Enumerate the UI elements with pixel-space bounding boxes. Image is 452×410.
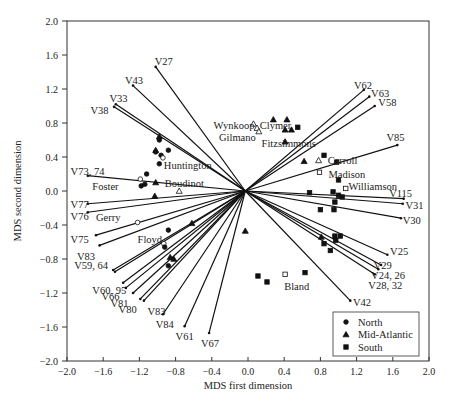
square-marker-south	[322, 153, 326, 157]
vector-endpoint	[114, 270, 117, 273]
circle-marker-north	[143, 182, 148, 187]
vector-label: V59, 64	[74, 260, 109, 271]
square-marker-south	[344, 186, 348, 190]
vector-endpoint	[373, 105, 376, 108]
circle-marker-north	[135, 220, 140, 225]
square-marker-south	[334, 238, 338, 242]
legend-label: Mid-Atlantic	[358, 329, 413, 340]
vector-label: V43	[125, 75, 143, 86]
y-tick-label: 0.0	[46, 186, 59, 197]
square-marker-south	[333, 234, 337, 238]
y-tick-label: −0.8	[40, 254, 58, 265]
square-marker-south	[265, 280, 269, 284]
vector-label: V67	[201, 338, 219, 349]
square-legend-icon	[344, 345, 348, 349]
vector-endpoint	[113, 106, 116, 109]
loading-vectors: V27V43V33V38V73, 74V77V76V75V83V59, 64V6…	[71, 56, 424, 349]
circle-legend-icon	[344, 320, 349, 325]
delegate-name-label: Wynkoop	[214, 120, 255, 131]
x-tick-label: −2.0	[58, 366, 76, 377]
delegate-name-label: Gilmano	[219, 132, 256, 143]
vector-endpoint	[98, 244, 101, 247]
vector-line	[209, 191, 245, 333]
vector-endpoint	[143, 299, 146, 302]
triangle-marker-midatlantic	[153, 147, 159, 152]
vector-label: V42	[353, 297, 371, 308]
vector-label: V30	[403, 215, 421, 226]
mds-biplot: −2.0−1.6−1.2−0.8−0.40.00.40.81.21.62.0 2…	[0, 0, 452, 410]
y-tick-label: −2.0	[40, 356, 58, 367]
circle-marker-north	[144, 172, 149, 177]
x-tick-label: 2.0	[423, 366, 436, 377]
y-tick-label: −1.2	[40, 288, 58, 299]
square-marker-south	[338, 234, 342, 238]
delegate-name-label: Clymer	[260, 120, 292, 131]
triangle-marker-midatlantic	[152, 193, 158, 198]
vector-label: V76	[71, 211, 89, 222]
vector-endpoint	[132, 292, 135, 295]
square-marker-south	[307, 191, 311, 195]
square-marker-south	[303, 270, 307, 274]
legend-label: South	[358, 342, 383, 353]
x-tick-label: −1.2	[130, 366, 148, 377]
square-marker-south	[283, 272, 287, 276]
x-tick-label: 1.6	[387, 366, 400, 377]
vector-label: V84	[156, 319, 175, 330]
vector-label: V85	[386, 132, 404, 143]
square-marker-south	[296, 125, 300, 129]
delegate-name-label: Williamson	[348, 181, 397, 192]
square-marker-south	[331, 190, 335, 194]
square-marker-south	[333, 200, 337, 204]
vector-label: V31	[405, 200, 423, 211]
circle-marker-north	[166, 264, 171, 269]
x-tick-label: 0.0	[242, 366, 255, 377]
circle-marker-north	[166, 148, 171, 153]
y-tick-label: 0.4	[46, 152, 59, 163]
delegate-name-label: Bland	[284, 281, 310, 292]
vector-line	[100, 191, 246, 245]
y-tick-label: 1.6	[46, 50, 59, 61]
square-marker-south	[328, 248, 332, 252]
vector-label: V58	[378, 97, 396, 108]
vector-label: V73, 74	[71, 166, 106, 177]
y-tick-label: −1.6	[40, 322, 58, 333]
delegate-name-label: Fitzsimmons	[262, 138, 316, 149]
x-tick-label: −0.4	[203, 366, 221, 377]
vector-label: V38	[91, 105, 109, 116]
vector-endpoint	[162, 313, 165, 316]
square-marker-south	[317, 170, 321, 174]
vector-line	[115, 191, 245, 272]
vector-endpoint	[95, 234, 98, 237]
vector-endpoint	[349, 299, 352, 302]
vector-label: V33	[110, 93, 128, 104]
delegate-name-label: Boudinot	[165, 178, 204, 189]
y-axis-ticks: 2.01.61.20.80.40.0−0.4−0.8−1.2−1.6−2.0	[40, 16, 67, 367]
square-marker-south	[332, 208, 336, 212]
x-tick-label: 1.2	[350, 366, 363, 377]
vector-line	[185, 191, 246, 326]
y-tick-label: 2.0	[46, 16, 59, 27]
circle-marker-north	[157, 162, 162, 167]
vector-endpoint	[373, 273, 376, 276]
square-marker-south	[256, 274, 260, 278]
delegate-name-label: Floyd	[138, 234, 163, 245]
x-axis-title: MDS first dimension	[204, 380, 293, 391]
circle-marker-north	[166, 228, 171, 233]
delegate-name-label: Foster	[92, 181, 119, 192]
square-marker-south	[318, 208, 322, 212]
x-tick-label: 0.4	[278, 366, 291, 377]
square-marker-south	[340, 195, 344, 199]
circle-marker-north	[138, 177, 143, 182]
y-tick-label: −0.4	[40, 220, 58, 231]
x-tick-label: 0.8	[314, 366, 327, 377]
vector-label: V27	[155, 56, 173, 67]
vector-endpoint	[122, 282, 125, 285]
delegate-name-label: Gerry	[96, 212, 121, 223]
vector-endpoint	[183, 325, 186, 328]
vector-line	[245, 191, 381, 265]
vector-endpoint	[208, 332, 211, 335]
vector-line	[163, 191, 245, 314]
triangle-marker-midatlantic	[176, 188, 182, 193]
vector-endpoint	[401, 202, 404, 205]
y-tick-label: 1.2	[46, 84, 59, 95]
